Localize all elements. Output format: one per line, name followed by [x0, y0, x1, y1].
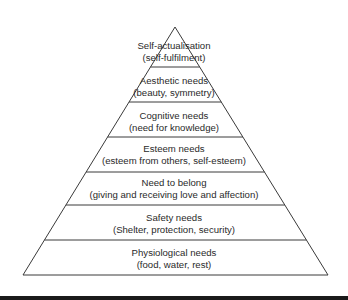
level-name: Safety needs	[0, 212, 348, 224]
level-detail: (giving and receiving love and affection…	[0, 189, 348, 201]
level-esteem: Esteem needs (esteem from others, self-e…	[0, 143, 348, 167]
level-safety: Safety needs (Shelter, protection, secur…	[0, 212, 348, 236]
level-physiological: Physiological needs (food, water, rest)	[0, 247, 348, 271]
level-detail: (self-fulfilment)	[0, 52, 348, 64]
level-name: Esteem needs	[0, 143, 348, 155]
level-name: Physiological needs	[0, 247, 348, 259]
level-self-actualisation: Self-actualisation (self-fulfilment)	[0, 40, 348, 64]
level-name: Cognitive needs	[0, 110, 348, 122]
level-detail: (food, water, rest)	[0, 259, 348, 271]
level-belonging: Need to belong (giving and receiving lov…	[0, 177, 348, 201]
level-name: Self-actualisation	[0, 40, 348, 52]
level-detail: (need for knowledge)	[0, 122, 348, 134]
bottom-border-bar	[0, 296, 348, 300]
level-aesthetic: Aesthetic needs (beauty, symmetry)	[0, 75, 348, 99]
level-detail: (esteem from others, self-esteem)	[0, 155, 348, 167]
level-cognitive: Cognitive needs (need for knowledge)	[0, 110, 348, 134]
level-name: Aesthetic needs	[0, 75, 348, 87]
level-detail: (Shelter, protection, security)	[0, 224, 348, 236]
level-detail: (beauty, symmetry)	[0, 87, 348, 99]
level-name: Need to belong	[0, 177, 348, 189]
